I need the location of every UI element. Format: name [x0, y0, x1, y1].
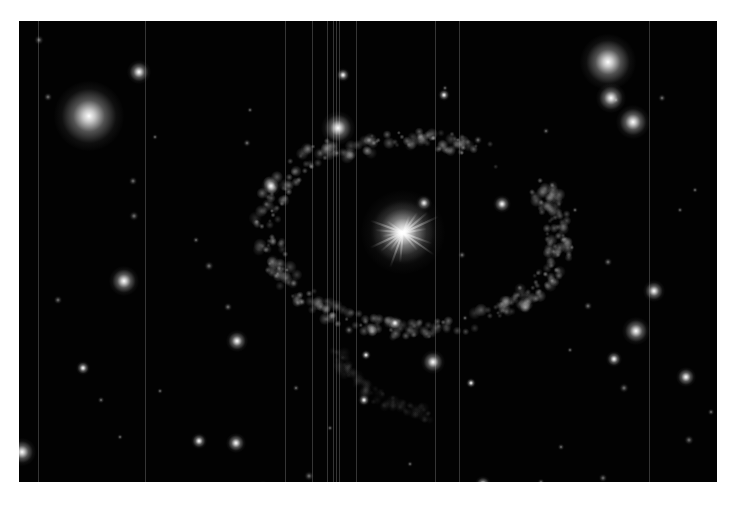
- nebula-clump: [508, 300, 514, 306]
- nebula-clump: [552, 215, 558, 221]
- nebula-clump: [296, 301, 301, 306]
- star: [684, 435, 694, 445]
- nebula-clump: [271, 212, 276, 217]
- astronomical-image: [19, 21, 717, 482]
- nebula-clump: [443, 325, 451, 333]
- star: [129, 177, 138, 186]
- star: [204, 261, 214, 271]
- nebula-clump: [422, 329, 432, 339]
- star: [226, 433, 246, 453]
- nebula-clump: [485, 307, 492, 314]
- nebula-clump: [537, 178, 543, 184]
- nebula-clump: [534, 283, 540, 289]
- star: [580, 34, 636, 90]
- star: [708, 409, 715, 416]
- star: [462, 315, 468, 321]
- star: [191, 433, 207, 449]
- nebula-clump: [266, 221, 274, 229]
- streak-line: [356, 21, 357, 482]
- nebula-clump: [266, 243, 271, 248]
- nebula-clump: [319, 313, 331, 325]
- nebula-clump: [275, 205, 281, 211]
- nebula-clump: [405, 140, 415, 150]
- nebula-clump: [296, 291, 303, 298]
- star: [421, 350, 445, 374]
- nebula-clump: [275, 271, 280, 276]
- nebula-clump: [383, 130, 392, 139]
- star: [606, 351, 622, 367]
- star: [157, 388, 163, 394]
- star: [677, 207, 683, 213]
- star: [474, 136, 483, 145]
- nebula-clump: [282, 251, 288, 257]
- nebula-clump: [291, 269, 302, 280]
- star: [44, 93, 53, 102]
- nebula-clump: [487, 313, 493, 319]
- star: [109, 266, 139, 296]
- star: [54, 296, 63, 305]
- nebula-clump: [552, 192, 563, 203]
- star: [129, 211, 139, 221]
- nebula-clump: [292, 178, 301, 187]
- star: [336, 68, 350, 82]
- nebula-clump: [550, 224, 559, 233]
- star: [358, 394, 370, 406]
- nebula-clump: [320, 144, 331, 155]
- nebula-clump: [395, 142, 400, 147]
- streak-line: [327, 21, 328, 482]
- star: [692, 187, 698, 193]
- nebula-clump: [493, 164, 499, 170]
- star: [616, 105, 650, 139]
- faint-nebula-clump: [335, 349, 342, 356]
- star: [599, 474, 608, 483]
- faint-nebula-clump: [412, 411, 419, 418]
- nebula-clump: [359, 135, 371, 147]
- nebula-clump: [298, 154, 303, 159]
- star: [543, 128, 550, 135]
- nebula-clump: [564, 253, 573, 262]
- nebula-clump: [311, 288, 317, 294]
- star: [676, 367, 696, 387]
- star: [584, 302, 593, 311]
- star: [438, 89, 450, 101]
- star: [19, 438, 36, 466]
- nebula-clump: [290, 294, 295, 299]
- star: [254, 481, 272, 482]
- star: [304, 471, 314, 481]
- star: [226, 330, 248, 352]
- star: [243, 139, 251, 147]
- nebula-clump: [310, 144, 315, 149]
- streak-line: [312, 21, 313, 482]
- star: [538, 479, 545, 483]
- star: [388, 316, 402, 330]
- nebula-clump: [530, 192, 540, 202]
- nebula-clump: [556, 253, 561, 258]
- star: [261, 176, 281, 196]
- nebula-clump: [344, 317, 349, 322]
- nebula-clump: [437, 130, 444, 137]
- star: [117, 434, 123, 440]
- nebula-clump: [521, 303, 530, 312]
- nebula-clump: [333, 303, 341, 311]
- star: [407, 461, 413, 467]
- star: [493, 195, 511, 213]
- nebula-clump: [462, 328, 470, 336]
- faint-nebula-clump: [381, 402, 387, 408]
- nebula-clump: [368, 326, 378, 336]
- streak-line: [333, 21, 334, 482]
- streak-line: [145, 21, 146, 482]
- nebula-clump: [302, 168, 308, 174]
- faint-nebula-clump: [426, 410, 432, 416]
- star: [193, 237, 200, 244]
- streak-line: [339, 21, 340, 482]
- star: [127, 60, 151, 84]
- star: [321, 111, 355, 145]
- nebula-clump: [285, 188, 293, 196]
- nebula-clump: [426, 128, 438, 140]
- nebula-clump: [291, 280, 298, 287]
- nebula-clump: [255, 205, 267, 217]
- nebula-clump: [508, 308, 515, 315]
- star: [76, 361, 90, 375]
- star: [344, 325, 354, 335]
- star: [572, 207, 578, 213]
